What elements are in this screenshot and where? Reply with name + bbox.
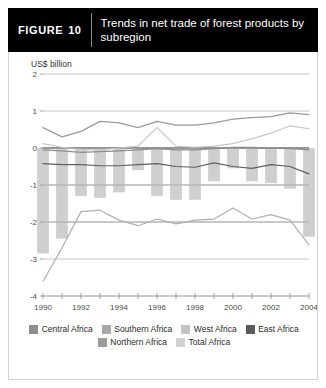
bar-total-africa	[132, 148, 144, 170]
y-tick-label: 2	[33, 70, 38, 79]
legend-swatch	[176, 338, 185, 347]
bar-total-africa	[56, 148, 68, 239]
y-tick-label: -1	[30, 181, 38, 190]
y-tick-label: 0	[33, 144, 38, 153]
bar-total-africa	[75, 148, 87, 196]
legend-item: East Africa	[246, 324, 299, 334]
figure-tag: FIGURE 10	[8, 24, 91, 36]
figure-number: 10	[68, 24, 81, 36]
legend-item: Central Africa	[29, 324, 93, 334]
x-tick-label: 2000	[224, 303, 242, 312]
figure-title: Trends in net trade of forest products b…	[101, 16, 318, 44]
x-tick-label: 1998	[186, 303, 204, 312]
legend-row-1: Central AfricaSouthern AfricaWest Africa…	[9, 324, 319, 334]
y-tick-label: -3	[30, 255, 38, 264]
bar-total-africa	[208, 148, 220, 181]
legend-label: Total Africa	[189, 337, 231, 347]
y-tick-label: 1	[33, 107, 38, 116]
x-tick-label: 1990	[34, 303, 52, 312]
legend-label: East Africa	[258, 324, 299, 334]
x-tick-label: 1994	[110, 303, 128, 312]
x-tick-label: 1996	[148, 303, 166, 312]
legend-item: Northern Africa	[98, 337, 167, 347]
figure-word: FIGURE	[18, 24, 63, 36]
bar-total-africa	[94, 148, 106, 198]
figure-header: FIGURE 10 Trends in net trade of forest …	[8, 8, 318, 52]
legend-label: West Africa	[194, 324, 237, 334]
legend-swatch	[102, 325, 111, 334]
y-tick-label: -2	[30, 218, 38, 227]
bar-total-africa	[151, 148, 163, 196]
legend-swatch	[246, 325, 255, 334]
legend-row-2: Northern AfricaTotal Africa	[9, 337, 319, 347]
legend-item: Southern Africa	[102, 324, 173, 334]
x-tick-label: 1992	[72, 303, 90, 312]
bar-total-africa	[170, 148, 182, 200]
legend-item: Total Africa	[176, 337, 230, 347]
bar-total-africa	[113, 148, 125, 192]
legend-swatch	[181, 325, 190, 334]
chart-plot-area: 210-1-2-3-419901992199419961998200020022…	[9, 52, 317, 324]
header-divider	[91, 13, 92, 47]
y-tick-label: -4	[30, 292, 38, 301]
legend-item: West Africa	[181, 324, 236, 334]
legend-label: Northern Africa	[110, 337, 167, 347]
legend-label: Southern Africa	[114, 324, 172, 334]
bar-total-africa	[246, 148, 258, 181]
figure-card: FIGURE 10 Trends in net trade of forest …	[0, 0, 326, 388]
legend-swatch	[98, 338, 107, 347]
x-tick-label: 2004	[300, 303, 317, 312]
series-line	[43, 126, 309, 150]
bar-total-africa	[189, 148, 201, 200]
legend-label: Central Africa	[42, 324, 93, 334]
bar-total-africa	[303, 148, 315, 237]
series-line	[43, 208, 309, 281]
legend-swatch	[29, 325, 38, 334]
plot-card: US$ billion 210-1-2-3-419901992199419961…	[8, 52, 318, 380]
x-tick-label: 2002	[262, 303, 280, 312]
chart-legend: Central AfricaSouthern AfricaWest Africa…	[9, 324, 319, 350]
